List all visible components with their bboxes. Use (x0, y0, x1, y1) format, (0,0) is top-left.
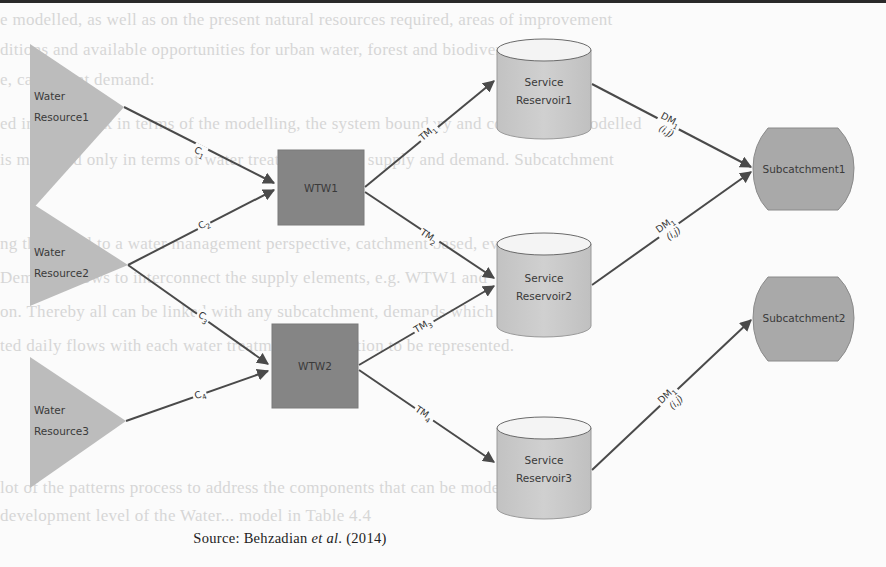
svg-text:Service: Service (525, 76, 564, 88)
svg-text:Reservoir3: Reservoir3 (516, 472, 572, 484)
svg-text:WTW1: WTW1 (304, 182, 338, 194)
caption-italic: et al (311, 530, 338, 546)
edge-label-dm-sr3: DM1 (i,j) (654, 382, 688, 416)
cylinder-top (497, 233, 591, 255)
edges (124, 81, 751, 470)
water-network-diagram: C1 C2 C3 C4 TM1 TM2 TM3 TM4 (0, 0, 886, 567)
water-resource-3: Water Resource3 (30, 357, 126, 488)
svg-text:Water: Water (34, 404, 66, 416)
svg-text:Reservoir1: Reservoir1 (516, 94, 572, 106)
figure-caption: Source: Behzadian et al. (2014) (0, 530, 580, 547)
edge-label-tm3: TM3 (410, 314, 437, 338)
cylinder-top (497, 39, 591, 61)
edge-label-tm4: TM4 (411, 402, 438, 427)
svg-text:Subcatchment1: Subcatchment1 (763, 163, 846, 175)
cylinder-top (497, 417, 591, 439)
service-reservoir-2: Service Reservoir2 (497, 233, 591, 337)
caption-suffix: . (2014) (338, 530, 386, 546)
subcatchment-2: Subcatchment2 (753, 277, 854, 361)
svg-text:Resource2: Resource2 (34, 267, 89, 279)
svg-text:Resource1: Resource1 (34, 111, 89, 123)
svg-text:Water: Water (34, 90, 66, 102)
edge-label-dm-sr1: DM1 (i,j) (651, 109, 683, 141)
triangle-shape (30, 357, 126, 488)
triangle-shape (30, 44, 124, 212)
svg-text:Service: Service (525, 454, 564, 466)
edge-label-c4: C4 (191, 386, 209, 405)
service-reservoir-3: Service Reservoir3 (497, 417, 591, 519)
water-resource-1: Water Resource1 (30, 44, 124, 212)
subcatchment-1: Subcatchment1 (753, 128, 854, 210)
edge-label-dm-sr2: DM1 (i,j) (652, 213, 686, 247)
edge-label-c1: C1 (189, 142, 208, 162)
svg-text:Subcatchment2: Subcatchment2 (763, 312, 846, 324)
treatment-works-2: WTW2 (272, 324, 358, 408)
svg-text:Resource3: Resource3 (34, 425, 89, 437)
svg-text:Reservoir2: Reservoir2 (516, 290, 572, 302)
caption-prefix: Source: Behzadian (193, 530, 311, 546)
water-resource-2: Water Resource2 (30, 202, 128, 306)
svg-text:WTW2: WTW2 (298, 360, 332, 372)
svg-text:Water: Water (34, 246, 66, 258)
svg-text:Service: Service (525, 272, 564, 284)
edge-labels: C1 C2 C3 C4 TM1 TM2 TM3 TM4 (189, 109, 687, 427)
treatment-works-1: WTW1 (278, 150, 364, 225)
service-reservoir-1: Service Reservoir1 (497, 39, 591, 139)
edge-label-c2: C2 (194, 215, 213, 235)
